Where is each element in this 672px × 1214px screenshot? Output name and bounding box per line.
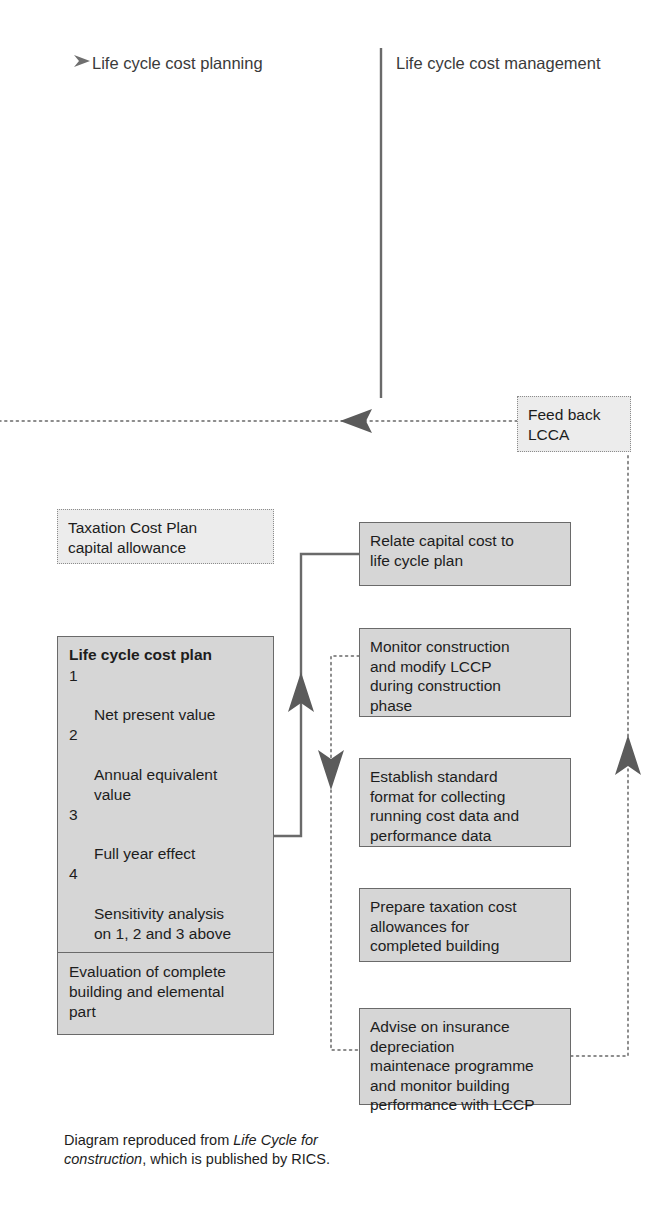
caption-before: Diagram reproduced from [64,1132,233,1148]
list-item-label: Net present value [94,706,216,723]
life-cycle-cost-plan-list: 1 Net present value 2 Annual equivalent … [69,666,265,944]
box-life-cycle-cost-plan-group[interactable]: Life cycle cost plan 1 Net present value… [57,636,274,1035]
box-feed-back-lcca[interactable]: Feed back LCCA [517,396,631,452]
box-feed-back-lcca-text: Feed back LCCA [528,405,621,444]
box-relate-capital-cost[interactable]: Relate capital cost to life cycle plan [359,522,571,586]
column-header-management: Life cycle cost management [396,53,601,74]
box-monitor-construction-text: Monitor construction and modify LCCP dur… [370,637,561,715]
box-evaluation-of-complete-building[interactable]: Evaluation of complete building and elem… [57,952,274,1034]
list-item: 4 Sensitivity analysis on 1, 2 and 3 abo… [69,864,265,943]
list-item: 2 Annual equivalent value [69,725,265,804]
box-advise-on-insurance-text: Advise on insurance depreciation mainten… [370,1017,561,1115]
list-item-label: Sensitivity analysis on 1, 2 and 3 above [94,905,231,942]
list-item: 1 Net present value [69,666,265,725]
list-item-number: 2 [69,725,78,745]
list-item-label: Annual equivalent value [94,766,217,803]
box-taxation-cost-plan[interactable]: Taxation Cost Plan capital allowance [57,509,274,564]
box-prepare-taxation-cost[interactable]: Prepare taxation cost allowances for com… [359,888,571,962]
advise-to-feedback-path [571,452,628,1056]
feedback-arrowhead [340,409,372,433]
box-taxation-cost-plan-text: Taxation Cost Plan capital allowance [68,518,264,557]
list-item-label: Full year effect [94,845,195,862]
monitor-to-establish-path [331,656,359,1050]
source-caption: Diagram reproduced from Life Cycle for c… [64,1131,354,1168]
box-prepare-taxation-cost-text: Prepare taxation cost allowances for com… [370,897,561,956]
box-establish-standard-format[interactable]: Establish standard format for collecting… [359,758,571,847]
relate-path-up-arrowhead [288,672,314,712]
life-cycle-cost-plan-title: Life cycle cost plan [69,645,265,665]
box-monitor-construction[interactable]: Monitor construction and modify LCCP dur… [359,628,571,717]
box-life-cycle-cost-plan[interactable]: Life cycle cost plan 1 Net present value… [57,636,274,952]
list-item-number: 1 [69,666,78,686]
list-item: 3 Full year effect [69,805,265,864]
monitor-path-down-arrowhead [318,750,344,790]
list-item-number: 4 [69,864,78,884]
arrow-right-icon [74,50,94,72]
advise-path-up-arrowhead [615,735,641,775]
box-evaluation-text: Evaluation of complete building and elem… [69,962,265,1021]
box-advise-on-insurance[interactable]: Advise on insurance depreciation mainten… [359,1008,571,1105]
caption-after: , which is published by RICS. [142,1151,330,1167]
relate-to-evaluation-path [274,554,359,836]
list-item-number: 3 [69,805,78,825]
box-establish-standard-format-text: Establish standard format for collecting… [370,767,561,845]
diagram-canvas: Life cycle cost planning Life cycle cost… [0,0,672,1214]
column-header-planning: Life cycle cost planning [92,53,263,74]
box-relate-capital-cost-text: Relate capital cost to life cycle plan [370,531,561,570]
